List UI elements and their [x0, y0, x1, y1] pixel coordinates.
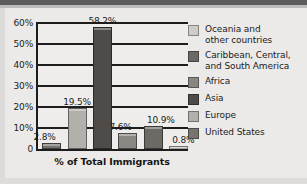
- legend-label-line: Asia: [205, 93, 223, 104]
- bar-face: [118, 133, 137, 149]
- page-top-band-secondary: [0, 5, 307, 8]
- legend-swatch: [188, 94, 199, 105]
- legend-label: Caribbean, Central,and South America: [205, 50, 291, 71]
- legend-label: Oceania andother countries: [205, 24, 272, 45]
- bar: 19.5%: [68, 108, 87, 149]
- y-axis-tick-label: 20%: [14, 102, 33, 112]
- legend-label-line: other countries: [205, 35, 272, 46]
- bar-face: [42, 143, 61, 149]
- legend-swatch: [188, 128, 199, 139]
- bar-top-highlight: [145, 127, 162, 129]
- y-axis-tick-label: 0: [27, 144, 33, 154]
- bar-value-label: 10.9%: [147, 115, 175, 125]
- legend-label-line: Europe: [205, 110, 236, 121]
- bar: 0.8%: [169, 146, 188, 149]
- legend-item: Oceania andother countries: [188, 24, 301, 45]
- legend-item: Caribbean, Central,and South America: [188, 50, 301, 71]
- gridline: [36, 43, 188, 45]
- legend-item: Asia: [188, 93, 301, 105]
- legend-label-line: and South America: [205, 61, 291, 72]
- legend-item: Africa: [188, 76, 301, 88]
- bar-face: [169, 146, 188, 149]
- bar-top-highlight: [43, 144, 60, 146]
- legend-label-line: Caribbean, Central,: [205, 50, 291, 61]
- bar: 10.9%: [144, 126, 163, 149]
- chart-page: 60%50%40%30%20%10%0 2.8%19.5%58.2%7.6%10…: [0, 0, 307, 184]
- x-axis-title: % of Total Immigrants: [36, 156, 188, 167]
- y-axis-tick-label: 30%: [14, 81, 33, 91]
- y-axis-tick-label: 60%: [14, 18, 33, 28]
- legend-swatch: [188, 77, 199, 88]
- bar-value-label: 2.8%: [34, 132, 56, 142]
- legend-label: United States: [205, 127, 265, 138]
- bar-top-highlight: [94, 28, 111, 30]
- bar-face: [68, 108, 87, 149]
- legend-swatch: [188, 25, 199, 36]
- bar-top-highlight: [119, 134, 136, 136]
- bar-chart: 60%50%40%30%20%10%0 2.8%19.5%58.2%7.6%10…: [6, 10, 301, 176]
- legend-item: United States: [188, 127, 301, 139]
- bar: 2.8%: [42, 143, 61, 149]
- legend-item: Europe: [188, 110, 301, 122]
- bar-value-label: 7.6%: [110, 122, 132, 132]
- legend-label: Europe: [205, 110, 236, 121]
- chart-legend: Oceania andother countriesCaribbean, Cen…: [188, 24, 301, 144]
- bar-value-label: 19.5%: [63, 97, 91, 107]
- gridline: [36, 64, 188, 66]
- plot-area-wrapper: 60%50%40%30%20%10%0 2.8%19.5%58.2%7.6%10…: [36, 23, 188, 151]
- y-axis-tick-label: 50%: [14, 39, 33, 49]
- legend-label-line: Oceania and: [205, 24, 272, 35]
- legend-label: Africa: [205, 76, 230, 87]
- bar-top-highlight: [69, 109, 86, 111]
- bar-top-highlight: [170, 147, 187, 149]
- bar-face: [144, 126, 163, 149]
- legend-label-line: United States: [205, 127, 265, 138]
- legend-label-line: Africa: [205, 76, 230, 87]
- bar: 7.6%: [118, 133, 137, 149]
- gridline: [36, 106, 188, 108]
- page-left-edge: [0, 8, 5, 178]
- bar-value-label: 58.2%: [89, 16, 117, 26]
- legend-swatch: [188, 111, 199, 122]
- y-axis-tick-label: 10%: [14, 123, 33, 133]
- legend-swatch: [188, 51, 199, 62]
- page-bottom-band: [0, 178, 307, 184]
- gridline: [36, 85, 188, 87]
- legend-label: Asia: [205, 93, 223, 104]
- y-axis-tick-label: 40%: [14, 60, 33, 70]
